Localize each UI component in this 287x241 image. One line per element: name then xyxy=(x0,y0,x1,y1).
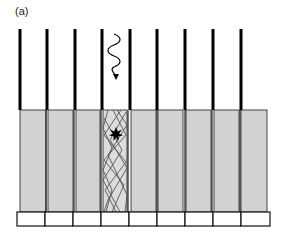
light-guide xyxy=(45,212,73,226)
crystal xyxy=(76,110,100,212)
light-guide xyxy=(213,212,241,226)
crystal xyxy=(131,110,156,212)
crystal xyxy=(214,110,239,212)
detector-diagram xyxy=(0,0,287,241)
light-guide xyxy=(101,212,129,226)
crystal xyxy=(158,110,183,212)
crystal xyxy=(48,110,73,212)
light-guide-row xyxy=(17,212,270,226)
light-guide xyxy=(73,212,101,226)
gamma-ray-arrow-icon xyxy=(108,34,120,80)
crystal xyxy=(241,110,267,212)
crystal-array xyxy=(20,110,267,212)
light-guide xyxy=(185,212,213,226)
light-guide xyxy=(241,212,270,226)
light-guide xyxy=(129,212,157,226)
light-guide xyxy=(157,212,185,226)
collimator-septa xyxy=(20,29,241,110)
crystal xyxy=(20,110,46,212)
crystal xyxy=(186,110,211,212)
light-guide xyxy=(17,212,45,226)
